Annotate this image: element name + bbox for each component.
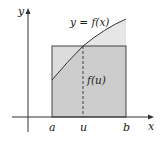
x-axis-arrow-icon (148, 115, 154, 120)
y-axis-label: y (17, 5, 25, 18)
tick-label-a: a (49, 121, 56, 134)
tick-label-b: b (123, 121, 130, 134)
x-axis-label: x (148, 120, 155, 133)
y-axis-arrow-icon (26, 8, 31, 14)
diagram: y x y = f(x) f(u) a u b (0, 0, 165, 142)
tick-label-u: u (80, 121, 87, 134)
curve-label: y = f(x) (69, 16, 109, 28)
rect-height-label: f(u) (86, 74, 106, 86)
